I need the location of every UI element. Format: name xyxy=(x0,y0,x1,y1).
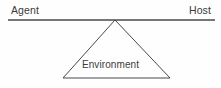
environment-label: Environment xyxy=(0,59,221,71)
agent-label: Agent xyxy=(11,4,39,16)
host-label: Host xyxy=(189,4,211,16)
diagram-figure: Agent Host Environment xyxy=(0,0,221,88)
